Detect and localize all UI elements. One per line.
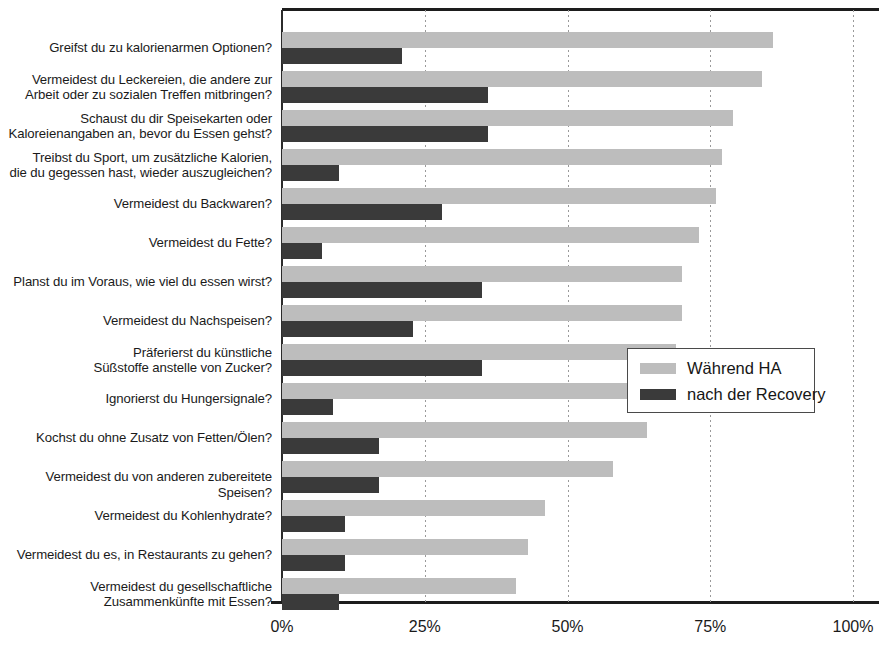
category-label: Planst du im Voraus, wie viel du essen w… (0, 274, 272, 290)
bar-after-recovery (282, 438, 379, 454)
bar-during-ha (282, 149, 722, 165)
legend-swatch-during-icon (640, 363, 676, 374)
bar-after-recovery (282, 282, 482, 298)
bar-during-ha (282, 110, 733, 126)
bar-after-recovery (282, 87, 488, 103)
bar-after-recovery (282, 126, 488, 142)
bar-after-recovery (282, 516, 345, 532)
category-label: Greifst du zu kalorienarmen Optionen? (0, 40, 272, 56)
category-label: Treibst du Sport, um zusätzliche Kalorie… (0, 150, 272, 181)
chart-screenshot: Greifst du zu kalorienarmen Optionen?Ver… (0, 0, 879, 649)
category-label: Vermeidest du es, in Restaurants zu gehe… (0, 547, 272, 563)
bar-after-recovery (282, 555, 345, 571)
bar-during-ha (282, 422, 647, 438)
bar-after-recovery (282, 477, 379, 493)
category-label: Kochst du ohne Zusatz von Fetten/Ölen? (0, 430, 272, 446)
legend-label-during: Während HA (687, 359, 781, 378)
category-label: Vermeidest du Nachspeisen? (0, 313, 272, 329)
bar-during-ha (282, 227, 699, 243)
category-label: Vermeidest du Backwaren? (0, 196, 272, 212)
bar-during-ha (282, 539, 528, 555)
x-tick-label: 100% (833, 618, 874, 636)
legend-item-during: Während HA (640, 355, 814, 381)
bar-during-ha (282, 32, 773, 48)
category-label: Ignorierst du Hungersignale? (0, 391, 272, 407)
category-label: Präferierst du künstliche Süßstoffe anst… (0, 345, 272, 376)
gridline-75pct (710, 10, 711, 602)
category-label: Vermeidest du von anderen zubereitete Sp… (0, 469, 272, 500)
bar-after-recovery (282, 48, 402, 64)
category-label: Schaust du dir Speisekarten oder Kalorei… (0, 111, 272, 142)
bar-during-ha (282, 500, 545, 516)
chart-legend: Während HA nach der Recovery (627, 348, 815, 413)
category-label: Vermeidest du Kohlenhydrate? (0, 508, 272, 524)
legend-label-recovery: nach der Recovery (687, 385, 826, 404)
bar-after-recovery (282, 204, 442, 220)
bar-after-recovery (282, 594, 339, 610)
legend-item-recovery: nach der Recovery (640, 381, 814, 407)
bar-during-ha (282, 344, 676, 360)
x-tick-label: 0% (270, 618, 293, 636)
bar-during-ha (282, 383, 659, 399)
bar-during-ha (282, 461, 613, 477)
bar-after-recovery (282, 165, 339, 181)
x-tick-label: 50% (551, 618, 583, 636)
bar-after-recovery (282, 243, 322, 259)
bar-during-ha (282, 71, 762, 87)
bar-during-ha (282, 188, 716, 204)
category-label: Vermeidest du Fette? (0, 235, 272, 251)
legend-swatch-recovery-icon (640, 389, 676, 400)
bar-after-recovery (282, 360, 482, 376)
category-label: Vermeidest du gesellschaftliche Zusammen… (0, 579, 272, 610)
bar-during-ha (282, 305, 682, 321)
x-tick-label: 75% (694, 618, 726, 636)
bar-during-ha (282, 266, 682, 282)
gridline-100pct (853, 10, 854, 602)
bar-after-recovery (282, 321, 413, 337)
category-label: Vermeidest du Leckereien, die andere zur… (0, 72, 272, 103)
x-tick-label: 25% (409, 618, 441, 636)
bar-during-ha (282, 578, 516, 594)
bar-after-recovery (282, 399, 333, 415)
